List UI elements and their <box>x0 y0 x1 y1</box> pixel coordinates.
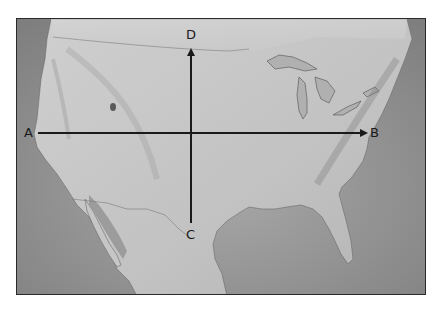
map-frame <box>16 18 426 295</box>
great-salt-lake <box>110 103 116 111</box>
map-background <box>17 19 426 295</box>
